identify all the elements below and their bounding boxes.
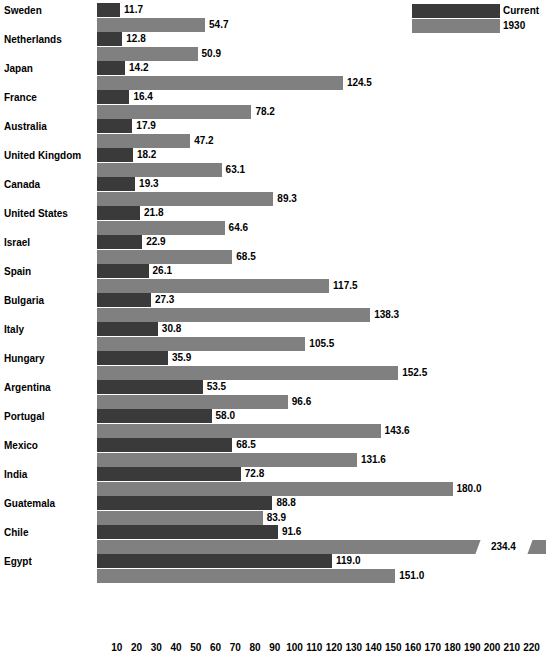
bar-chart: Current 1930 Sweden11.754.7Netherlands12… (0, 0, 550, 660)
bar-current: 16.4 (97, 90, 129, 104)
bar-value-label: 17.9 (136, 119, 155, 133)
bar-rows: Sweden11.754.7Netherlands12.850.9Japan14… (0, 3, 550, 583)
bar-value-label: 22.9 (146, 235, 165, 249)
bar-value-label: 18.2 (137, 148, 156, 162)
bar-old: 138.3 (97, 308, 370, 322)
bar-old: 68.5 (97, 250, 232, 264)
bar-old: 54.7 (97, 18, 205, 32)
bar-current: 21.8 (97, 206, 140, 220)
axis-tick-label: 10 (111, 641, 122, 655)
bar-value-label: 89.3 (277, 192, 296, 206)
bar-row: Guatemala88.883.9 (0, 496, 550, 525)
bar-old: 89.3 (97, 192, 273, 206)
bar-old: 131.6 (97, 453, 357, 467)
bar-old: 105.5 (97, 337, 305, 351)
bar-value-label: 96.6 (292, 395, 311, 409)
axis-tick-label: 120 (326, 641, 343, 655)
bar-value-label: 88.8 (276, 496, 295, 510)
category-label: India (4, 468, 96, 482)
category-label: France (4, 91, 96, 105)
axis-tick-label: 80 (249, 641, 260, 655)
axis-tick-label: 220 (523, 641, 540, 655)
bar-old: 117.5 (97, 279, 329, 293)
category-label: Egypt (4, 555, 96, 569)
axis-tick-label: 20 (131, 641, 142, 655)
bar-current: 91.6 (97, 525, 278, 539)
bar-current: 68.5 (97, 438, 232, 452)
bar-row: Argentina53.596.6 (0, 380, 550, 409)
bar-row: Spain26.1117.5 (0, 264, 550, 293)
category-label: Hungary (4, 352, 96, 366)
axis-tick-label: 160 (405, 641, 422, 655)
bar-value-label: 152.5 (402, 366, 427, 380)
category-label: Netherlands (4, 33, 96, 47)
bar-current: 58.0 (97, 409, 212, 423)
bar-value-label: 72.8 (245, 467, 264, 481)
bar-row: Italy30.8105.5 (0, 322, 550, 351)
bar-value-label: 138.3 (374, 308, 399, 322)
bar-value-label: 19.3 (139, 177, 158, 191)
axis-tick-label: 170 (424, 641, 441, 655)
bar-value-label: 131.6 (361, 453, 386, 467)
bar-old: 96.6 (97, 395, 288, 409)
bar-row: Hungary35.9152.5 (0, 351, 550, 380)
bar-value-label: 54.7 (209, 18, 228, 32)
bar-old: 151.0 (97, 569, 395, 583)
bar-current: 22.9 (97, 235, 142, 249)
bar-value-label: 124.5 (347, 76, 372, 90)
category-label: United States (4, 207, 96, 221)
bar-value-label: 30.8 (162, 322, 181, 336)
bar-old: 152.5 (97, 366, 398, 380)
bar-row: Israel22.968.5 (0, 235, 550, 264)
axis-tick-label: 70 (230, 641, 241, 655)
category-label: Mexico (4, 439, 96, 453)
bar-old: 124.5 (97, 76, 343, 90)
axis-tick-label: 100 (286, 641, 303, 655)
bar-row: Netherlands12.850.9 (0, 32, 550, 61)
axis-tick-label: 130 (345, 641, 362, 655)
bar-current: 30.8 (97, 322, 158, 336)
bar-value-label: 21.8 (144, 206, 163, 220)
bar-value-label: 180.0 (457, 482, 482, 496)
category-label: Guatemala (4, 497, 96, 511)
bar-value-label: 91.6 (282, 525, 301, 539)
bar-value-label: 105.5 (309, 337, 334, 351)
bar-row: France16.478.2 (0, 90, 550, 119)
axis-tick-label: 110 (306, 641, 322, 655)
bar-value-label: 50.9 (202, 47, 221, 61)
bar-current: 17.9 (97, 119, 132, 133)
category-label: Japan (4, 62, 96, 76)
bar-current: 11.7 (97, 3, 120, 17)
bar-value-label: 47.2 (194, 134, 213, 148)
bar-value-label: 83.9 (267, 511, 286, 525)
axis-tick-label: 60 (210, 641, 221, 655)
bar-current: 14.2 (97, 61, 125, 75)
bar-value-label: 27.3 (155, 293, 174, 307)
bar-old: 180.0 (97, 482, 453, 496)
bar-old: 63.1 (97, 163, 222, 177)
bar-current: 18.2 (97, 148, 133, 162)
bar-row: United States21.864.6 (0, 206, 550, 235)
bar-value-label: 78.2 (255, 105, 274, 119)
bar-value-label: 63.1 (226, 163, 245, 177)
bar-row: Mexico68.5131.6 (0, 438, 550, 467)
category-label: Italy (4, 323, 96, 337)
bar-value-label: 234.4 (491, 540, 516, 554)
x-axis: 1020304050607080901001101201301401501601… (0, 641, 550, 657)
bar-current: 19.3 (97, 177, 135, 191)
bar-value-label: 117.5 (333, 279, 357, 293)
bar-row: Bulgaria27.3138.3 (0, 293, 550, 322)
bar-current: 53.5 (97, 380, 203, 394)
axis-tick-label: 140 (365, 641, 382, 655)
category-label: Chile (4, 526, 96, 540)
bar-current: 27.3 (97, 293, 151, 307)
category-label: Canada (4, 178, 96, 192)
bar-value-label: 26.1 (153, 264, 172, 278)
category-label: United Kingdom (4, 149, 96, 163)
bar-value-label: 68.5 (236, 438, 255, 452)
bar-old: 50.9 (97, 47, 198, 61)
category-label: Israel (4, 236, 96, 250)
category-label: Bulgaria (4, 294, 96, 308)
bar-current: 12.8 (97, 32, 122, 46)
bar-value-label: 151.0 (399, 569, 424, 583)
